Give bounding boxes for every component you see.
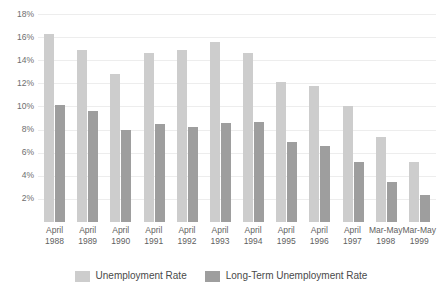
x-axis: April1988April1989April1990April1991Apri… [38,225,436,255]
y-axis-tick-label: 2% [0,194,34,203]
bar[interactable] [88,111,98,222]
x-axis-tick-label: April1992 [170,225,203,255]
x-axis-tick-line: April [104,225,137,236]
bar[interactable] [287,142,297,222]
y-axis-tick-label: 12% [0,79,34,88]
bar-group [171,14,204,222]
bar[interactable] [243,53,253,222]
chart-legend: Unemployment RateLong-Term Unemployment … [0,266,442,286]
x-axis-tick-label: Mar-May1998 [369,225,403,255]
x-axis-tick-label: April1996 [303,225,336,255]
bar[interactable] [144,53,154,222]
x-axis-tick-line: April [237,225,270,236]
bar-group [71,14,104,222]
x-axis-tick-label: April1997 [336,225,369,255]
legend-swatch [75,271,90,282]
legend-item[interactable]: Unemployment Rate [75,271,187,282]
legend-item[interactable]: Long-Term Unemployment Rate [205,271,368,282]
x-axis-tick-line: April [137,225,170,236]
bar-series-container [38,14,436,222]
x-axis-tick-label: April1994 [237,225,270,255]
bar-group [370,14,403,222]
x-axis-tick-line: 1988 [38,236,71,247]
y-axis-tick-label: 4% [0,171,34,180]
x-axis-tick-line: April [38,225,71,236]
bar-chart: 18%16%14%12%10%8%6%4%2% April1988April19… [0,0,442,291]
x-axis-tick-line: April [71,225,104,236]
y-axis-tick-label: 14% [0,56,34,65]
legend-label: Long-Term Unemployment Rate [226,271,368,281]
bar[interactable] [221,123,231,222]
bar[interactable] [409,162,419,222]
x-axis-tick-line: 1997 [336,236,369,247]
bar[interactable] [110,74,120,222]
x-axis-tick-label: April1993 [203,225,236,255]
y-axis-tick-label: 10% [0,102,34,111]
x-axis-tick-line: 1993 [203,236,236,247]
legend-swatch [205,271,220,282]
bar-group [337,14,370,222]
y-axis-tick-label: 18% [0,10,34,19]
bar[interactable] [210,42,220,222]
bar[interactable] [276,82,286,222]
bar[interactable] [77,50,87,222]
x-axis-tick-label: April1995 [270,225,303,255]
bar[interactable] [309,86,319,222]
x-axis-tick-line: 1990 [104,236,137,247]
bar-group [403,14,436,222]
x-axis-tick-line: Mar-May [369,225,403,236]
y-axis: 18%16%14%12%10%8%6%4%2% [0,14,34,222]
bar[interactable] [55,105,65,222]
bar[interactable] [177,50,187,222]
x-axis-tick-label: April1988 [38,225,71,255]
bar[interactable] [376,137,386,223]
bar[interactable] [387,182,397,222]
bar-group [38,14,71,222]
x-axis-tick-line: 1995 [270,236,303,247]
x-axis-tick-line: 1989 [71,236,104,247]
y-axis-tick-label: 16% [0,33,34,42]
bar[interactable] [155,124,165,222]
bar[interactable] [121,130,131,222]
x-axis-tick-line: 1999 [402,236,436,247]
bar[interactable] [44,34,54,222]
bar[interactable] [354,162,364,222]
x-axis-tick-line: Mar-May [402,225,436,236]
bar-group [104,14,137,222]
legend-label: Unemployment Rate [96,271,187,281]
x-axis-tick-label: April1991 [137,225,170,255]
x-axis-tick-line: April [336,225,369,236]
bar-group [204,14,237,222]
x-axis-tick-line: April [303,225,336,236]
x-axis-tick-label: Mar-May1999 [402,225,436,255]
x-axis-tick-line: 1996 [303,236,336,247]
bar[interactable] [420,195,430,222]
x-axis-tick-line: 1994 [237,236,270,247]
x-axis-tick-label: April1989 [71,225,104,255]
x-axis-tick-line: 1992 [170,236,203,247]
bar-group [270,14,303,222]
bar-group [303,14,336,222]
bar[interactable] [188,127,198,222]
x-axis-tick-line: 1998 [369,236,403,247]
y-axis-tick-label: 8% [0,125,34,134]
x-axis-tick-line: April [170,225,203,236]
x-axis-tick-line: 1991 [137,236,170,247]
x-axis-tick-line: April [203,225,236,236]
bar[interactable] [343,106,353,222]
bar[interactable] [254,122,264,223]
x-axis-tick-line: April [270,225,303,236]
bar-group [237,14,270,222]
bar-group [138,14,171,222]
x-axis-tick-label: April1990 [104,225,137,255]
bar[interactable] [320,146,330,222]
y-axis-tick-label: 6% [0,148,34,157]
